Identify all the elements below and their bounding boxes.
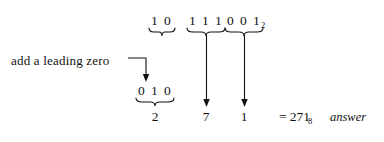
underbrace-group-1 [148, 27, 176, 37]
down-arrow-group-3 [240, 35, 249, 108]
underbrace-padded-group [135, 97, 175, 107]
binary-group-1-digit-1: 0 [161, 14, 174, 28]
octal-result-digit-0: 2 [146, 110, 164, 124]
padded-digit-0: 0 [135, 84, 148, 98]
binary-group-1-digit-0: 1 [148, 14, 161, 28]
padded-binary-group: 010 [135, 84, 174, 98]
binary-group-2-digit-0: 1 [186, 14, 199, 28]
answer-equals-sign: = [279, 109, 287, 124]
down-arrow-group-2 [202, 35, 211, 108]
binary-group-3-digit-1: 0 [237, 14, 250, 28]
padded-digit-2: 0 [161, 84, 174, 98]
answer-label: answer [330, 111, 366, 124]
binary-group-2: 111 [186, 14, 225, 28]
binary-group-3-digit-0: 0 [224, 14, 237, 28]
annotation-label: add a leading zero [11, 54, 110, 67]
octal-result-digit-2: 1 [235, 110, 253, 124]
answer-expression: =2718 [279, 110, 312, 126]
binary-group-1: 10 [148, 14, 174, 28]
answer-base-subscript: 8 [308, 116, 312, 126]
binary-group-2-digit-1: 1 [199, 14, 212, 28]
binary-to-octal-figure: 10 111 0012 add a leading zero 010 [0, 0, 384, 142]
padded-digit-1: 1 [148, 84, 161, 98]
answer-value: 271 [290, 109, 310, 124]
octal-result-digit-1: 7 [197, 110, 215, 124]
